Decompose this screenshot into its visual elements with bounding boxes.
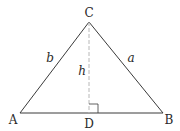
vertex-label-c: C [84, 6, 93, 20]
vertex-label-a: A [8, 113, 18, 127]
altitude-label-h: h [78, 64, 86, 78]
side-label-b: b [46, 51, 54, 65]
right-angle-marker [89, 104, 98, 113]
side-label-a: a [127, 51, 134, 65]
triangle-diagram: C A B D b a h [0, 0, 180, 131]
vertex-label-d: D [84, 117, 94, 131]
vertex-label-b: B [165, 113, 174, 127]
side-a [89, 22, 163, 113]
